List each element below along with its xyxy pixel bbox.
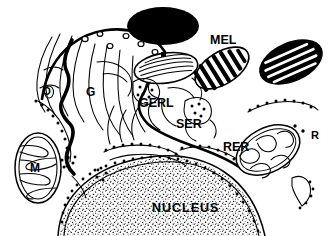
cell-diagram-canvas: MEL GERL SER RER NUCLEUS G M R O <box>0 0 334 236</box>
label-nucleus: NUCLEUS <box>152 201 219 215</box>
label-golgi: G <box>86 85 95 99</box>
label-ser: SER <box>176 117 202 131</box>
label-other: O <box>43 86 51 97</box>
melanosome-dense-granule <box>161 52 166 57</box>
melanosome-stage-iv-solid <box>127 7 199 45</box>
label-gerl: GERL <box>139 96 174 110</box>
label-rer: RER <box>223 140 249 154</box>
label-mel: MEL <box>210 33 237 47</box>
melanocyte-diagram: MEL GERL SER RER NUCLEUS G M R O <box>0 0 334 236</box>
label-mitochondrion: M <box>30 161 40 175</box>
label-ribosomes: R <box>311 129 319 141</box>
